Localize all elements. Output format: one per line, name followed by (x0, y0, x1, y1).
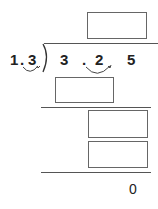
division-bracket-and-arcs (0, 0, 158, 209)
product-answer-box-2[interactable] (88, 141, 148, 168)
subtraction-line-1 (41, 107, 151, 108)
remainder-value: 0 (129, 181, 137, 197)
subtraction-line-2 (41, 172, 151, 173)
difference-answer-box[interactable] (88, 110, 148, 138)
product-answer-box-1[interactable] (55, 77, 114, 103)
